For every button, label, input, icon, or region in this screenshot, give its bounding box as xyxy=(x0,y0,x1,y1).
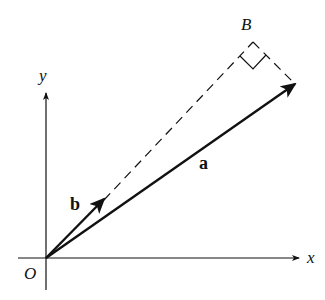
label-point-B: B xyxy=(241,15,252,34)
label-y-axis: y xyxy=(37,66,47,85)
label-origin: O xyxy=(24,264,36,283)
label-x-axis: x xyxy=(306,248,315,267)
projection-line-along-b xyxy=(104,42,253,200)
label-vector-b: b xyxy=(70,194,80,214)
right-angle-marker xyxy=(240,55,266,69)
diagram-canvas: O x y B a b xyxy=(0,0,325,300)
label-vector-a: a xyxy=(199,153,208,173)
vector-a xyxy=(46,84,295,258)
